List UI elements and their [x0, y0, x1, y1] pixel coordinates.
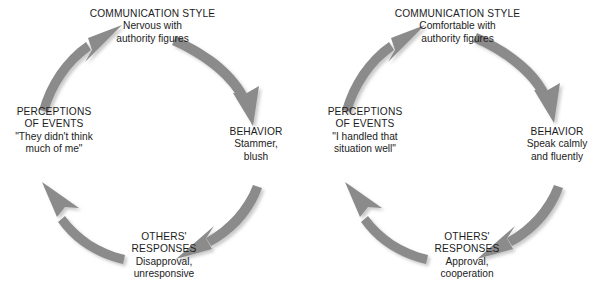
- node-others-responses: OTHERS' RESPONSES Approval, cooperation: [411, 231, 523, 281]
- node-detail-line-2: much of me": [2, 143, 106, 155]
- node-detail-line-2: blush: [212, 151, 300, 163]
- node-detail-line-1: Nervous with: [90, 20, 215, 32]
- node-behavior: BEHAVIOR Speak calmly and fluently: [513, 126, 601, 163]
- node-detail-line-1: Stammer,: [212, 138, 300, 150]
- node-heading-line-1: OTHERS': [108, 231, 220, 243]
- arrow-communication-style-to-behavior: [473, 33, 560, 123]
- node-communication-style: COMMUNICATION STYLE Comfortable with aut…: [395, 8, 520, 45]
- node-behavior: BEHAVIOR Stammer, blush: [212, 126, 300, 163]
- node-detail-line-1: Approval,: [411, 256, 523, 268]
- node-detail-line-1: Comfortable with: [395, 20, 520, 32]
- positive-cycle: COMMUNICATION STYLE Comfortable with aut…: [305, 0, 610, 287]
- node-others-responses: OTHERS' RESPONSES Disapproval, unrespons…: [108, 231, 220, 281]
- node-perceptions-of-events: PERCEPTIONS OF EVENTS "I handled that si…: [313, 106, 417, 156]
- node-heading-line-2: OF EVENTS: [2, 118, 106, 130]
- node-heading-line-1: OTHERS': [411, 231, 523, 243]
- node-detail-line-2: authority figures: [395, 33, 520, 45]
- node-detail-line-2: cooperation: [411, 268, 523, 280]
- node-heading-line-1: PERCEPTIONS: [2, 106, 106, 118]
- node-detail-line-2: authority figures: [90, 33, 215, 45]
- node-detail-line-2: and fluently: [513, 151, 601, 163]
- node-detail-line-2: situation well": [313, 143, 417, 155]
- node-detail-line-1: Disapproval,: [108, 256, 220, 268]
- node-heading-line-2: RESPONSES: [411, 243, 523, 255]
- node-heading: COMMUNICATION STYLE: [90, 8, 215, 20]
- node-communication-style: COMMUNICATION STYLE Nervous with authori…: [90, 8, 215, 45]
- arrow-communication-style-to-behavior: [172, 36, 259, 126]
- node-heading-line-2: RESPONSES: [108, 243, 220, 255]
- node-heading-line-1: PERCEPTIONS: [313, 106, 417, 118]
- node-heading: BEHAVIOR: [212, 126, 300, 138]
- node-detail-line-1: Speak calmly: [513, 138, 601, 150]
- node-detail-line-2: unresponsive: [108, 268, 220, 280]
- cycle-diagram: COMMUNICATION STYLE Nervous with authori…: [0, 0, 610, 287]
- node-detail-line-1: "They didn't think: [2, 131, 106, 143]
- node-heading: COMMUNICATION STYLE: [395, 8, 520, 20]
- node-detail-line-1: "I handled that: [313, 131, 417, 143]
- node-heading: BEHAVIOR: [513, 126, 601, 138]
- negative-cycle: COMMUNICATION STYLE Nervous with authori…: [0, 0, 305, 287]
- node-perceptions-of-events: PERCEPTIONS OF EVENTS "They didn't think…: [2, 106, 106, 156]
- node-heading-line-2: OF EVENTS: [313, 118, 417, 130]
